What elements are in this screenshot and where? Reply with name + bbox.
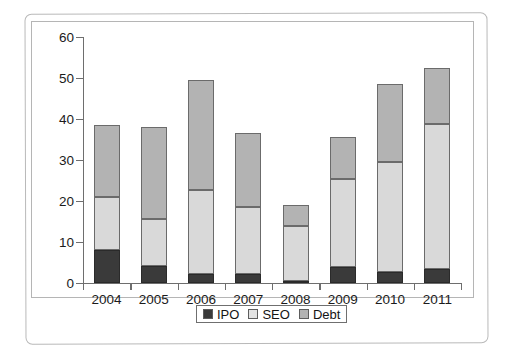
y-tick-label-0: 0	[34, 277, 74, 291]
legend-item-seo[interactable]: SEO	[248, 308, 289, 321]
bar-segment-2005-ipo[interactable]	[141, 266, 167, 283]
bar-segment-2004-seo[interactable]	[94, 197, 120, 250]
y-tick-label-30: 30	[34, 154, 74, 168]
bar-segment-2011-debt[interactable]	[424, 68, 450, 125]
y-tick-50	[76, 78, 83, 79]
y-tick-10	[76, 242, 83, 243]
x-tick-8	[461, 283, 462, 290]
bar-2009[interactable]	[330, 21, 356, 283]
bar-segment-2010-seo[interactable]	[377, 162, 403, 272]
bar-segment-2006-debt[interactable]	[188, 80, 214, 190]
bar-2007[interactable]	[235, 21, 261, 283]
legend-item-debt[interactable]: Debt	[299, 308, 340, 321]
bar-segment-2009-debt[interactable]	[330, 137, 356, 179]
bar-2005[interactable]	[141, 21, 167, 283]
bar-segment-2004-ipo[interactable]	[94, 250, 120, 283]
legend-label-seo: SEO	[262, 308, 289, 321]
bar-segment-2011-seo[interactable]	[424, 124, 450, 269]
x-tick-5	[319, 283, 320, 290]
y-tick-40	[76, 119, 83, 120]
y-tick-label-10: 10	[34, 236, 74, 250]
x-tick-1	[130, 283, 131, 290]
bar-2011[interactable]	[424, 21, 450, 283]
bar-2004[interactable]	[94, 21, 120, 283]
bar-segment-2008-ipo[interactable]	[283, 281, 309, 283]
bar-segment-2007-seo[interactable]	[235, 207, 261, 274]
ipo-swatch-icon	[203, 309, 213, 319]
bar-segment-2007-debt[interactable]	[235, 133, 261, 208]
debt-swatch-icon	[299, 309, 309, 319]
stacked-bar-chart: 0102030405060 20042005200620072008200920…	[31, 21, 474, 298]
x-tick-2	[178, 283, 179, 290]
legend-label-ipo: IPO	[217, 308, 239, 321]
bar-segment-2008-seo[interactable]	[283, 226, 309, 280]
x-tick-6	[367, 283, 368, 290]
bar-segment-2010-debt[interactable]	[377, 84, 403, 162]
bar-segment-2005-seo[interactable]	[141, 219, 167, 267]
bar-segment-2011-ipo[interactable]	[424, 269, 450, 283]
x-tick-3	[225, 283, 226, 290]
y-tick-20	[76, 201, 83, 202]
y-axis-line	[83, 37, 84, 284]
bar-2006[interactable]	[188, 21, 214, 283]
y-tick-label-50: 50	[34, 72, 74, 86]
y-tick-label-60: 60	[34, 31, 74, 45]
seo-swatch-icon	[248, 309, 258, 319]
y-tick-label-40: 40	[34, 113, 74, 127]
legend-label-debt: Debt	[313, 308, 340, 321]
bar-segment-2008-debt[interactable]	[283, 205, 309, 226]
y-tick-label-20: 20	[34, 195, 74, 209]
y-tick-0	[76, 283, 83, 284]
x-tick-4	[272, 283, 273, 290]
y-tick-60	[76, 37, 83, 38]
bar-segment-2009-ipo[interactable]	[330, 267, 356, 283]
bar-segment-2006-ipo[interactable]	[188, 274, 214, 283]
bar-segment-2004-debt[interactable]	[94, 125, 120, 197]
x-tick-0	[83, 283, 84, 290]
bar-2008[interactable]	[283, 21, 309, 283]
bar-segment-2006-seo[interactable]	[188, 190, 214, 274]
chart-legend: IPO SEO Debt	[196, 305, 347, 323]
bar-2010[interactable]	[377, 21, 403, 283]
x-tick-label-2011: 2011	[407, 293, 467, 307]
bar-segment-2009-seo[interactable]	[330, 179, 356, 267]
x-tick-7	[414, 283, 415, 290]
bar-segment-2010-ipo[interactable]	[377, 272, 403, 283]
bar-segment-2005-debt[interactable]	[141, 127, 167, 218]
legend-item-ipo[interactable]: IPO	[203, 308, 239, 321]
y-tick-30	[76, 160, 83, 161]
bar-segment-2007-ipo[interactable]	[235, 274, 261, 283]
